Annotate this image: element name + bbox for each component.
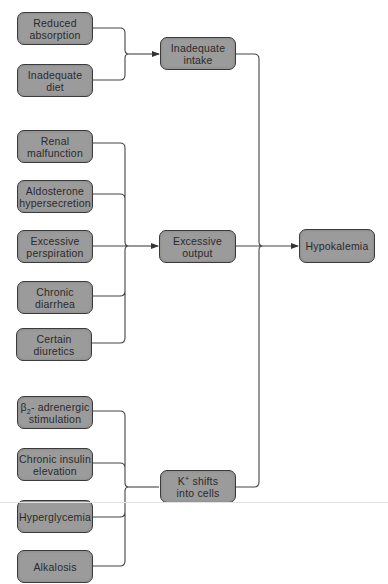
node-excessive-perspiration: Excessive perspiration (17, 230, 93, 263)
node-label: Reduced absorption (29, 17, 80, 41)
label-rest: - adrenergic stimulation (29, 401, 90, 425)
node-label: Chronic insulin elevation (19, 453, 91, 477)
node-chronic-insulin-elevation: Chronic insulin elevation (17, 448, 93, 481)
node-label: Certain diuretics (34, 333, 75, 357)
bracket-excessive-output (92, 143, 129, 343)
node-label: Inadequate diet (28, 69, 83, 93)
hypokalemia-causes-diagram: Reduced absorption Inadequate diet Renal… (0, 0, 388, 584)
node-label: Excessive perspiration (26, 235, 83, 259)
node-label: K+ shifts into cells (177, 475, 220, 499)
bracket-hypokalemia (236, 54, 263, 487)
node-label: Excessive output (173, 235, 222, 259)
node-label: Inadequate intake (171, 42, 226, 66)
node-label: Hyperglycemia (19, 511, 91, 523)
node-renal-malfunction: Renal malfunction (17, 130, 93, 163)
node-label: Alkalosis (33, 561, 76, 573)
node-beta2-adrenergic-stimulation: β2- adrenergic stimulation (17, 396, 93, 429)
node-label: β2- adrenergic stimulation (21, 401, 90, 425)
bracket-inadequate-intake (93, 28, 129, 80)
bracket-k-shifts (93, 411, 129, 566)
node-hyperglycemia: Hyperglycemia (17, 500, 93, 533)
node-k-shifts-into-cells: K+ shifts into cells (160, 470, 236, 503)
node-inadequate-intake: Inadequate intake (160, 37, 236, 70)
node-reduced-absorption: Reduced absorption (17, 12, 93, 45)
node-hypokalemia: Hypokalemia (299, 229, 375, 263)
scan-divider-line (0, 502, 388, 503)
node-inadequate-diet: Inadequate diet (17, 64, 93, 97)
node-aldosterone-hypersecretion: Aldosterone hypersecretion (17, 180, 93, 213)
node-label: Renal malfunction (27, 135, 83, 159)
node-label: Aldosterone hypersecretion (19, 185, 91, 209)
node-chronic-diarrhea: Chronic diarrhea (17, 281, 93, 314)
node-label: Hypokalemia (306, 240, 369, 252)
potassium-symbol: K (178, 475, 185, 487)
node-label: Chronic diarrhea (35, 286, 75, 310)
node-certain-diuretics: Certain diuretics (16, 328, 92, 361)
node-excessive-output: Excessive output (159, 230, 236, 263)
node-alkalosis: Alkalosis (17, 550, 93, 583)
